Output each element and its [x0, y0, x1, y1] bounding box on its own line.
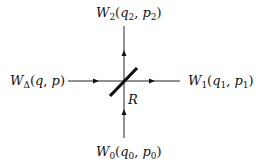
arrow-up-top-icon: [122, 50, 127, 56]
close-paren: ): [157, 5, 162, 20]
p-symbol: p: [235, 73, 243, 88]
arrow-right-right-icon: [149, 79, 155, 84]
w-symbol: W: [188, 73, 201, 88]
splitter-label-r: R: [128, 93, 138, 106]
comma: ,: [134, 5, 142, 20]
q-symbol: q: [120, 5, 128, 20]
splitter-label-text: R: [128, 92, 138, 107]
close-paren: ): [157, 144, 162, 159]
p-symbol: p: [52, 73, 60, 88]
w-symbol: W: [96, 5, 109, 20]
close-paren: ): [249, 73, 254, 88]
port-label-top: W2(q2, p2): [96, 6, 162, 19]
q-symbol: q: [120, 144, 128, 159]
comma: ,: [43, 73, 51, 88]
arrow-right-left-icon: [93, 79, 99, 84]
comma: ,: [226, 73, 234, 88]
port-label-right: W1(q1, p1): [188, 74, 254, 87]
p-symbol: p: [143, 5, 151, 20]
p-symbol: p: [143, 144, 151, 159]
q-symbol: q: [212, 73, 220, 88]
w-symbol: W: [10, 73, 23, 88]
close-paren: ): [60, 73, 65, 88]
arrow-up-bottom-icon: [122, 109, 127, 115]
comma: ,: [134, 144, 142, 159]
w-symbol: W: [96, 144, 109, 159]
port-label-bottom: W0(q0, p0): [96, 145, 162, 158]
port-label-left: WΔ(q, p): [10, 74, 65, 87]
